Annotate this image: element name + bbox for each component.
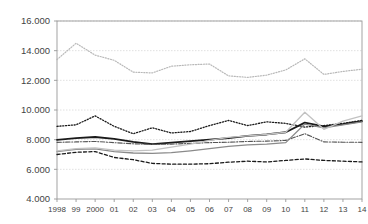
x-tick-label: 11 — [301, 205, 310, 214]
y-tick-label: 16.000 — [21, 15, 50, 26]
chart-background — [0, 0, 368, 224]
x-tick-label: 06 — [205, 205, 214, 214]
x-tick-label: 12 — [319, 205, 328, 214]
x-tick-label: 07 — [224, 205, 233, 214]
x-tick-label: 05 — [186, 205, 195, 214]
y-tick-label: 4.000 — [26, 193, 50, 204]
x-tick-label: 13 — [338, 205, 347, 214]
x-tick-label: 14 — [358, 205, 367, 214]
x-tick-label: 03 — [148, 205, 157, 214]
x-tick-label: 04 — [167, 205, 176, 214]
y-tick-label: 6.000 — [26, 164, 50, 175]
x-tick-label: 08 — [243, 205, 252, 214]
line-chart: 4.0006.0008.00010.00012.00014.00016.000 … — [0, 0, 368, 224]
x-tick-label: 99 — [72, 205, 81, 214]
x-tick-label: 10 — [281, 205, 290, 214]
chart-container: 4.0006.0008.00010.00012.00014.00016.000 … — [0, 0, 368, 224]
x-tick-label: 09 — [262, 205, 271, 214]
x-axis-tick-labels: 19989920000102030405060708091011121314 — [48, 205, 367, 214]
y-tick-label: 12.000 — [21, 75, 50, 86]
x-tick-label: 02 — [129, 205, 138, 214]
x-tick-label: 1998 — [48, 205, 66, 214]
x-tick-label: 2000 — [86, 205, 104, 214]
y-tick-label: 10.000 — [21, 104, 50, 115]
x-tick-label: 01 — [110, 205, 119, 214]
y-tick-label: 8.000 — [26, 134, 50, 145]
y-tick-label: 14.000 — [21, 45, 50, 56]
